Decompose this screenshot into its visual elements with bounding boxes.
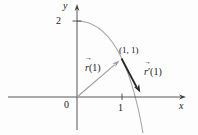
tangent-vector-symbol: → r <box>144 62 148 77</box>
y-axis-label: y <box>63 0 67 11</box>
position-vector-symbol: → r <box>85 58 89 73</box>
position-vector-argument: (1) <box>89 62 101 73</box>
position-vector-letter: r <box>85 62 89 73</box>
vector-over-arrow-icon: → <box>144 59 151 66</box>
vector-over-arrow-icon: → <box>85 55 92 62</box>
point-label: (1, 1) <box>119 45 139 56</box>
x-axis-label: x <box>179 100 183 111</box>
parabola-curve <box>77 21 143 133</box>
x-tick-label-1: 1 <box>118 102 123 113</box>
tangent-vector-line <box>122 59 137 88</box>
y-tick-label-2: 2 <box>56 15 61 26</box>
origin-label: 0 <box>64 99 69 110</box>
position-vector-label: → r (1) <box>85 58 101 73</box>
tangent-vector-argument: (1) <box>150 66 162 77</box>
tangent-vector-label: → r ′(1) <box>144 62 162 77</box>
vector-calculus-figure: y 2 0 1 x (1, 1) → r (1) → r ′(1) <box>0 0 198 135</box>
tangent-vector-letter: r <box>144 66 148 77</box>
